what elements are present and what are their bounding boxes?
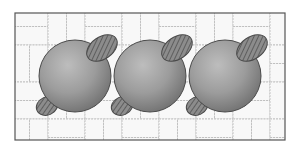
tile xyxy=(104,119,123,142)
tile xyxy=(11,27,48,46)
tile xyxy=(48,119,85,138)
tile xyxy=(11,119,30,142)
tile xyxy=(270,64,293,83)
tile xyxy=(159,8,196,27)
tile xyxy=(159,119,178,142)
tile xyxy=(289,8,294,45)
tile xyxy=(11,45,30,82)
figure-canvas xyxy=(0,0,293,142)
tile xyxy=(85,119,104,142)
tile xyxy=(233,119,252,142)
tile xyxy=(252,119,271,142)
tile xyxy=(178,119,197,142)
tile xyxy=(289,82,294,119)
sphere-diagram xyxy=(0,0,293,142)
tile xyxy=(270,119,293,138)
tile xyxy=(196,119,233,138)
tile xyxy=(11,8,48,27)
tile xyxy=(85,8,122,27)
spheres-group xyxy=(33,29,272,119)
tile xyxy=(270,45,293,64)
tile xyxy=(233,8,270,27)
tile xyxy=(270,82,289,119)
tile xyxy=(122,119,159,138)
tile xyxy=(30,119,49,142)
